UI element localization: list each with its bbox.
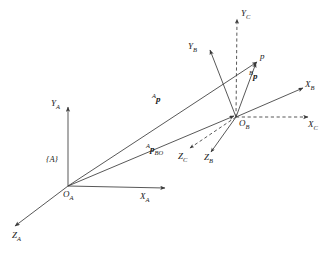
diagram-canvas xyxy=(0,0,329,253)
axis-x-b-line xyxy=(236,88,303,117)
axis-y-b-line xyxy=(210,50,236,117)
coordinate-frame-diagram: YA XA ZA OA {A} XB YB ZB OB YC XC ZC p A… xyxy=(0,0,329,253)
axis-label-x-b: XB xyxy=(305,80,314,91)
axis-label-x-c: XC xyxy=(308,120,318,131)
axis-label-z-a: ZA xyxy=(12,231,21,242)
axis-label-x-a: XA xyxy=(140,192,149,203)
axis-y-c-line xyxy=(236,19,237,117)
vector-label-a-p-bo: ApBO xyxy=(146,143,163,156)
vector-label-a-p: Ap xyxy=(152,93,160,104)
axis-label-y-a: YA xyxy=(51,99,60,110)
axis-label-y-c: YC xyxy=(241,9,250,20)
axis-z-c-line xyxy=(190,117,236,148)
origin-label-o-b: OB xyxy=(239,119,249,130)
origin-label-o-a: OA xyxy=(63,190,73,201)
axis-label-z-c: ZC xyxy=(178,152,187,163)
axis-x-a-line xyxy=(68,186,165,188)
frame-label-a: {A} xyxy=(46,155,58,164)
vector-a-p-line xyxy=(68,62,257,186)
vector-label-b-p: Bp xyxy=(249,70,257,81)
axis-z-b-line xyxy=(211,117,236,152)
axis-label-y-b: YB xyxy=(188,42,197,53)
point-label-p: p xyxy=(260,52,265,61)
axis-z-a-line xyxy=(15,186,68,226)
axis-label-z-b: ZB xyxy=(204,153,213,164)
